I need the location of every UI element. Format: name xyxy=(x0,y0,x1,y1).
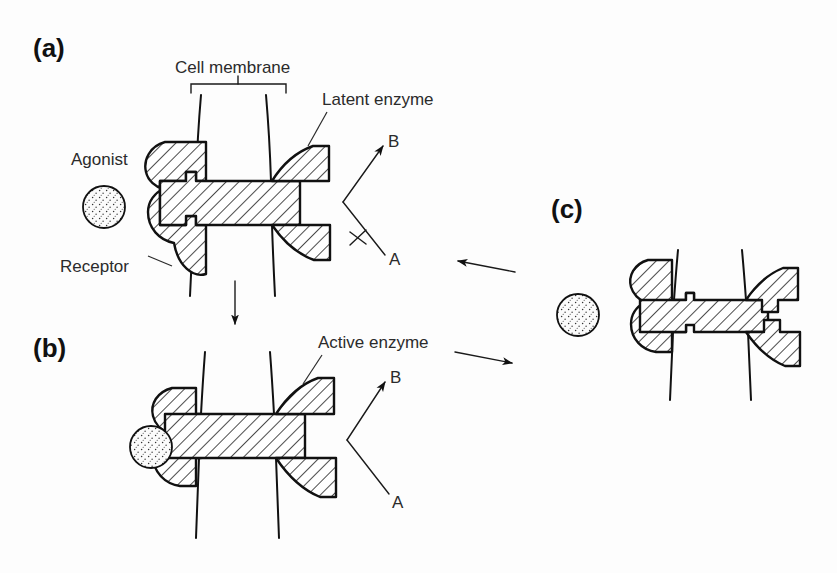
panel-c-label: (c) xyxy=(551,194,583,224)
panel-c: (c) xyxy=(551,194,800,400)
substrate-a-label-a: A xyxy=(389,250,401,269)
substrate-a-label-b: A xyxy=(392,493,404,512)
span-bracket-icon xyxy=(191,76,286,93)
agonist-icon-free-c xyxy=(557,294,599,336)
active-enzyme-label: Active enzyme xyxy=(318,333,429,352)
hatched-receptor-icon-b xyxy=(152,388,305,486)
figure-canvas: (a) Cell membrane Latent enzyme xyxy=(0,0,837,573)
cell-membrane-label: Cell membrane xyxy=(175,58,290,77)
receptor-enzyme-coupling-diagram: (a) Cell membrane Latent enzyme xyxy=(0,0,837,573)
panel-a-label: (a) xyxy=(33,33,65,63)
receptor-label: Receptor xyxy=(60,257,129,276)
latent-enzyme-label: Latent enzyme xyxy=(322,90,434,109)
receptor-leader xyxy=(148,256,172,266)
panel-b: (b) Active enzyme B A xyxy=(33,333,429,538)
hatched-receptor-icon xyxy=(145,142,300,275)
panel-a: (a) Cell membrane Latent enzyme xyxy=(33,33,434,296)
product-b-label-b: B xyxy=(390,368,401,387)
product-b-label-a: B xyxy=(388,132,399,151)
agonist-icon xyxy=(83,186,125,228)
arrow-b-to-c xyxy=(455,352,512,363)
agonist-icon-bound xyxy=(130,426,172,468)
reaction-arrows-b: B A xyxy=(347,368,404,512)
reaction-arrows-a: B A xyxy=(343,132,401,269)
agonist-label: Agonist xyxy=(71,150,128,169)
cross-mark xyxy=(350,230,366,245)
arrow-c-to-a xyxy=(458,261,515,272)
latent-enzyme-leader xyxy=(308,112,327,146)
panel-b-label: (b) xyxy=(33,333,66,363)
